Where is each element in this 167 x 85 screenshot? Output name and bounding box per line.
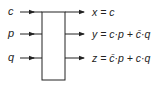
output-z-equation: z = c̄·p + c·q xyxy=(91,52,151,64)
gate-box xyxy=(42,12,65,80)
input-p-label: p xyxy=(7,27,14,39)
output-y-equation: y = c·p + c̄·q xyxy=(91,28,151,40)
input-q-label: q xyxy=(8,51,15,63)
fredkin-gate-diagram: c p q x = c y = c·p + c̄·q z = c̄·p + c·… xyxy=(0,0,167,85)
output-x-equation: x = c xyxy=(91,6,115,18)
input-c-label: c xyxy=(8,5,14,17)
